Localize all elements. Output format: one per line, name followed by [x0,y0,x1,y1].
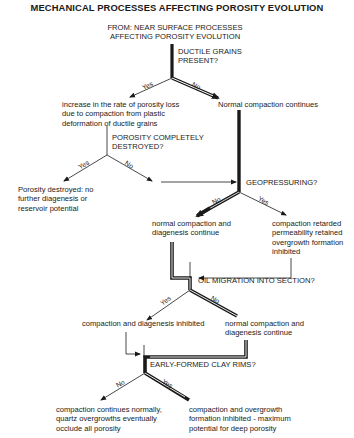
outcome-clay-no: compaction continues normally, quartz ov… [56,405,162,433]
outcome-ductile-no: Normal compaction continues [218,100,318,109]
outcome-ductile-yes: increase in the rate of porosity loss du… [62,100,179,128]
outcome-text: permeability retained [272,228,343,237]
outcome-geo-no: normal compaction and diagenesis continu… [152,219,231,238]
flowchart: MECHANICAL PROCESSES AFFECTING POROSITY … [0,0,354,438]
outcome-text: compaction and overgrowth [189,405,291,414]
outcome-text: compaction continues normally, [56,405,162,414]
outcome-text: diagenesis continue [152,228,231,237]
outcome-text: overgrowth formation [272,238,343,247]
decision-text: PRESENT? [178,56,242,65]
decision-text: DESTROYED? [112,142,204,151]
outcome-text: reservoir potential [18,204,94,213]
outcome-text: formation inhibited - maximum [189,414,291,423]
outcome-text: deformation of ductile grains [62,119,179,128]
decision-ductile-grains: DUCTILE GRAINS PRESENT? [178,47,242,66]
decision-oil-migration: OIL MIGRATION INTO SECTION? [198,276,315,285]
start-node: FROM: NEAR SURFACE PROCESSES AFFECTING P… [104,23,246,42]
outcome-geo-yes: compaction retarded permeability retaine… [272,219,343,257]
decision-porosity-destroyed: POROSITY COMPLETELY DESTROYED? [112,133,204,152]
outcome-text: increase in the rate of porosity loss [62,100,179,109]
outcome-text: compaction retarded [272,219,343,228]
diagram-title: MECHANICAL PROCESSES AFFECTING POROSITY … [0,2,354,13]
decision-clay-rims: EARLY-FORMED CLAY RIMS? [150,360,256,369]
outcome-clay-yes: compaction and overgrowth formation inhi… [189,405,291,433]
decision-geopressuring: GEOPRESSURING? [246,178,317,187]
decision-text: DUCTILE GRAINS [178,47,242,56]
start-line-2: AFFECTING POROSITY EVOLUTION [104,32,246,41]
outcome-text: normal compaction and [225,319,304,328]
outcome-text: normal compaction and [152,219,231,228]
outcome-text: occlude all porosity [56,424,162,433]
outcome-oil-yes: compaction and diagenesis inhibited [82,319,204,328]
outcome-oil-no: normal compaction and diagenesis continu… [225,319,304,338]
outcome-text: due to compaction from plastic [62,109,179,118]
outcome-text: inhibited [272,247,343,256]
outcome-text: quartz overgrowths eventually [56,414,162,423]
start-line-1: FROM: NEAR SURFACE PROCESSES [104,23,246,32]
decision-text: POROSITY COMPLETELY [112,133,204,142]
outcome-text: further diagenesis or [18,194,94,203]
outcome-text: Porosity destroyed: no [18,185,94,194]
outcome-text: potential for deep porosity [189,424,291,433]
outcome-porosity-destroyed: Porosity destroyed: no further diagenesi… [18,185,94,213]
outcome-text: diagenesis continue [225,328,304,337]
